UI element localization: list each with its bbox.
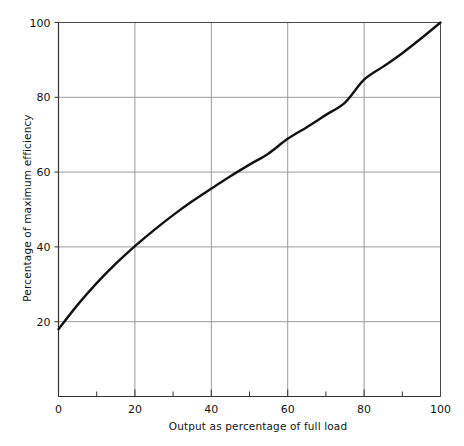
x-tick-label: 100 [430, 403, 451, 416]
y-tick-label: 80 [37, 91, 51, 104]
gridlines [59, 23, 441, 397]
y-tick-label: 40 [37, 241, 51, 254]
x-tick-labels: 020406080100 [55, 403, 451, 416]
x-tick-label: 60 [281, 403, 295, 416]
y-tick-label: 60 [37, 166, 51, 179]
x-tick-label: 80 [357, 403, 371, 416]
axis-lines [59, 23, 441, 397]
x-tick-label: 0 [55, 403, 62, 416]
minor-tick-marks [55, 23, 441, 397]
y-tick-labels: 20406080100 [30, 17, 51, 329]
plot-area: 020406080100 20406080100 [0, 0, 464, 446]
efficiency-curve [59, 23, 441, 330]
x-tick-label: 20 [128, 403, 142, 416]
x-tick-label: 40 [204, 403, 218, 416]
efficiency-chart-figure: Percentage of maximum efficiency Output … [0, 0, 464, 446]
y-tick-label: 100 [30, 17, 51, 30]
y-tick-label: 20 [37, 316, 51, 329]
